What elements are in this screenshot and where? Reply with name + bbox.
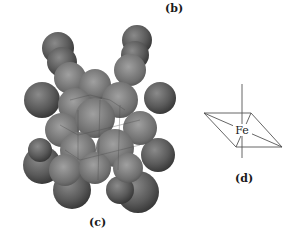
figure-canvas: Fe: [0, 0, 296, 238]
panel-d-label: (d): [235, 172, 253, 185]
fe-coordination-diagram: [204, 84, 282, 158]
panel-c-label: (c): [89, 216, 106, 229]
molecular-model: [23, 25, 176, 213]
fe-atom-label: Fe: [235, 124, 249, 137]
